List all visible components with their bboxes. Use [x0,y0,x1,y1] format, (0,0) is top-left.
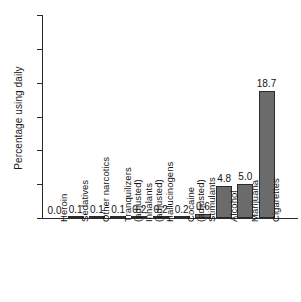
y-axis-title: Percentage using daily [12,18,26,218]
x-label-heroin: Heroin [59,194,70,222]
x-label-marijuana: Marijuana [250,180,261,222]
x-label-other-narcotics: Other narcotics [101,157,112,222]
y-tick-5 [37,184,42,185]
bar-value-label: 18.7 [250,78,284,89]
y-tick-20 [37,83,42,84]
x-label-cigarettes: Cigarettes [271,178,282,222]
y-tick-30 [37,15,42,16]
x-label-stimulants-sub: (adjusted) [196,179,207,222]
y-axis-line [42,15,43,219]
y-tick-10 [37,150,42,151]
x-label-sedatives: Sedatives [80,180,91,222]
x-label-hallucinogens: Hallucinogens [165,162,176,222]
bar-chart: Percentage using daily 051015202530 0.00… [0,0,301,302]
y-tick-15 [37,117,42,118]
x-label-stimulants: Stimulants [207,177,218,222]
x-label-alcohol: Alcohol [229,190,240,222]
x-label-inhalants-sub: (adjusted) [133,179,144,222]
x-label-hallucinogens-sub: (adjusted) [154,179,165,222]
y-tick-25 [37,49,42,50]
y-tick-0 [37,218,42,219]
